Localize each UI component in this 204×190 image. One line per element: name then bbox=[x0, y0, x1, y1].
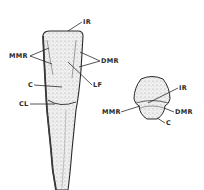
label-mesial-marginal-ridge: MMR bbox=[9, 53, 28, 60]
label-incisal-ridge-incisal-view: IR bbox=[179, 85, 187, 92]
label-incisal-ridge: IR bbox=[83, 19, 91, 26]
tooth-labial-view bbox=[43, 31, 83, 190]
diagram-drawing bbox=[0, 0, 204, 190]
label-cingulum: C bbox=[28, 82, 33, 89]
tooth-incisal-view bbox=[134, 77, 170, 120]
label-cervical-line: CL bbox=[19, 101, 29, 108]
label-cingulum-incisal-view: C bbox=[166, 120, 171, 127]
label-mesial-marginal-ridge-incisal-view: MMR bbox=[102, 109, 121, 116]
label-distal-marginal-ridge: DMR bbox=[101, 58, 119, 65]
label-distal-marginal-ridge-incisal-view: DMR bbox=[175, 109, 193, 116]
label-lingual-fossa: LF bbox=[93, 82, 102, 89]
dental-diagram: IR MMR DMR LF C CL IR MMR DMR C bbox=[0, 0, 204, 190]
